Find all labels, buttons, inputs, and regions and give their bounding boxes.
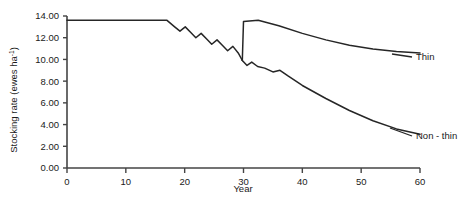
x-tick-label: 60: [415, 176, 426, 187]
x-tick-label: 10: [121, 176, 132, 187]
y-tick-label: 8.00: [41, 76, 60, 87]
series-label-thin: Thin: [416, 51, 434, 62]
y-axis-title-text: Stocking rate (ewes ha: [8, 55, 19, 152]
y-tick-label: 10.00: [35, 54, 59, 65]
x-axis-title: Year: [233, 183, 252, 194]
y-axis-tick-labels: 0.002.004.006.008.0010.0012.0014.00: [35, 10, 59, 173]
y-tick-label: 2.00: [41, 141, 60, 152]
x-tick-label: 50: [356, 176, 367, 187]
x-tick-label: 20: [179, 176, 190, 187]
svg-text:Stocking rate (ewes ha-1): Stocking rate (ewes ha-1): [8, 47, 19, 153]
y-tick-label: 12.00: [35, 32, 59, 43]
y-tick-label: 14.00: [35, 10, 59, 21]
chart-figure: Stocking rate (ewes ha-1) 0.002.004.006.…: [0, 0, 466, 202]
y-tick-label: 6.00: [41, 97, 60, 108]
y-axis-title: Stocking rate (ewes ha-1): [8, 47, 19, 153]
y-axis-title-tail: ): [8, 47, 19, 50]
series-annotations: ThinNon - thin: [390, 51, 457, 141]
stocking-rate-line-chart: Stocking rate (ewes ha-1) 0.002.004.006.…: [0, 0, 466, 202]
series-line-non-thin: [242, 61, 420, 135]
x-tick-label: 40: [297, 176, 308, 187]
leader-line-thin: [392, 54, 412, 57]
y-tick-label: 0.00: [41, 162, 60, 173]
series-line-common: [67, 20, 242, 60]
y-tick-label: 4.00: [41, 119, 60, 130]
x-tick-label: 0: [64, 176, 69, 187]
series-label-non-thin: Non - thin: [416, 130, 457, 141]
series-lines: [67, 20, 420, 134]
